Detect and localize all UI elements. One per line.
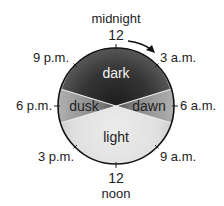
dusk-sector-label: dusk [69,98,100,114]
midnight-label: midnight [91,11,141,26]
dark-sector-label: dark [102,65,130,81]
noon-label: noon [102,186,131,201]
time-9pm-label: 9 p.m. [33,50,69,65]
top-12-label: 12 [108,27,124,43]
time-3pm-label: 3 p.m. [38,149,74,164]
time-9am-label: 9 a.m. [160,149,196,164]
time-6pm-label: 6 p.m. [16,98,52,113]
day-night-clock-diagram: midnight 12 9 p.m. 3 a.m. 6 p.m. 6 a.m. … [0,0,224,206]
light-sector-label: light [103,129,129,145]
time-3am-label: 3 a.m. [160,50,196,65]
time-6am-label: 6 a.m. [180,98,216,113]
dawn-sector-label: dawn [132,98,165,114]
bottom-12-label: 12 [108,170,124,186]
